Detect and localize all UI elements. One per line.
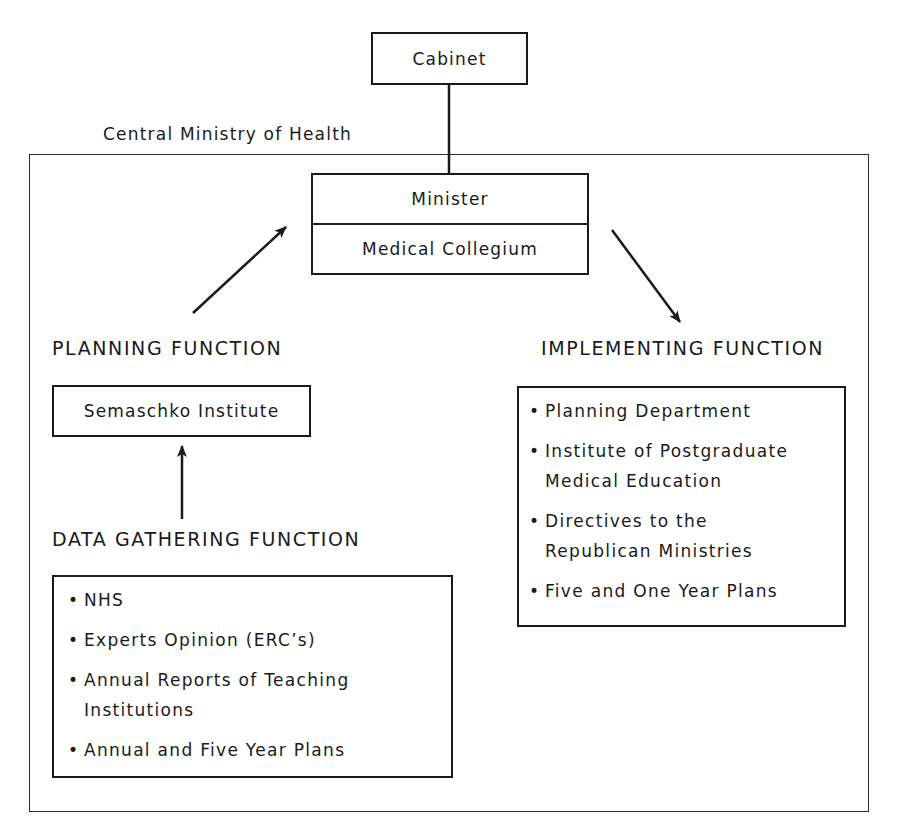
medical-collegium-cell: Medical Collegium (313, 225, 587, 273)
list-item: Five and One Year Plans (525, 576, 836, 606)
list-item: NHS (64, 585, 441, 615)
minister-label: Minister (411, 189, 488, 209)
ministry-node: Minister Medical Collegium (311, 173, 589, 275)
minister-cell: Minister (313, 175, 587, 225)
semaschko-institute-node: Semaschko Institute (52, 385, 311, 437)
list-item: Experts Opinion (ERC’s) (64, 625, 441, 655)
implementing-list: Planning Department Institute of Postgra… (525, 396, 836, 606)
data-gathering-list: NHS Experts Opinion (ERC’s) Annual Repor… (64, 585, 441, 765)
semaschko-institute-label: Semaschko Institute (84, 401, 280, 421)
implementing-box: Planning Department Institute of Postgra… (517, 386, 846, 627)
list-item: Planning Department (525, 396, 836, 426)
planning-function-heading: PLANNING FUNCTION (52, 337, 282, 359)
frame-label: Central Ministry of Health (103, 124, 352, 144)
list-item: Annual Reports of Teaching Institutions (64, 665, 414, 725)
medical-collegium-label: Medical Collegium (362, 239, 538, 259)
implementing-function-heading: IMPLEMENTING FUNCTION (541, 337, 824, 359)
list-item: Annual and Five Year Plans (64, 735, 441, 765)
cabinet-node: Cabinet (371, 32, 528, 85)
data-gathering-box: NHS Experts Opinion (ERC’s) Annual Repor… (52, 575, 453, 778)
data-gathering-heading: DATA GATHERING FUNCTION (52, 528, 360, 550)
list-item: Institute of Postgraduate Medical Educat… (525, 436, 841, 496)
list-item: Directives to the Republican Ministries (525, 506, 775, 566)
cabinet-label: Cabinet (412, 49, 486, 69)
